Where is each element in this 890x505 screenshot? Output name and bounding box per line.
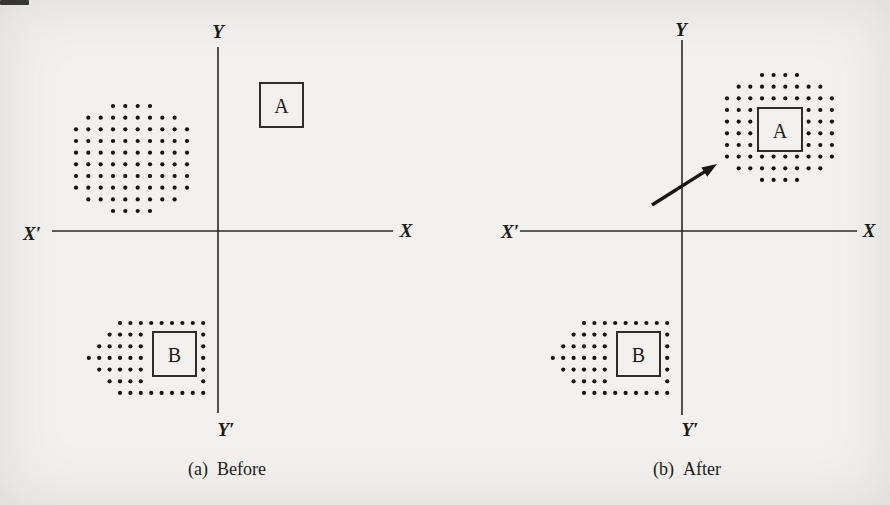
caption-before: (a)Before <box>188 459 266 480</box>
caption-after-index: (b) <box>653 459 674 479</box>
x-axis-label: X <box>399 220 414 241</box>
box-b-label: B <box>168 344 181 366</box>
diagram-after: YY′XX′AB <box>500 19 877 440</box>
y-prime-axis-label: Y′ <box>682 419 699 440</box>
box-a-label: A <box>274 95 289 117</box>
y-prime-axis-label: Y′ <box>218 419 235 440</box>
caption-after-text: After <box>683 459 721 479</box>
x-axis-label: X <box>862 220 877 241</box>
x-prime-axis-label: X′ <box>500 221 519 242</box>
figure-canvas: YY′XX′AB YY′XX′AB <box>0 0 890 505</box>
caption-before-index: (a) <box>188 459 208 479</box>
y-axis-label: Y <box>212 21 226 42</box>
dot-swarm-blob <box>74 104 189 213</box>
x-prime-axis-label: X′ <box>22 223 41 244</box>
move-arrow-shaft <box>652 171 706 205</box>
caption-after: (b)After <box>653 459 721 480</box>
textbook-figure-page: YY′XX′AB YY′XX′AB (a)Before (b)After <box>0 0 890 505</box>
box-a-label: A <box>773 120 788 142</box>
move-arrow-head <box>701 164 717 177</box>
diagram-before: YY′XX′AB <box>22 21 414 440</box>
y-axis-label: Y <box>675 19 689 40</box>
box-b-label: B <box>632 344 645 366</box>
caption-before-text: Before <box>217 459 266 479</box>
